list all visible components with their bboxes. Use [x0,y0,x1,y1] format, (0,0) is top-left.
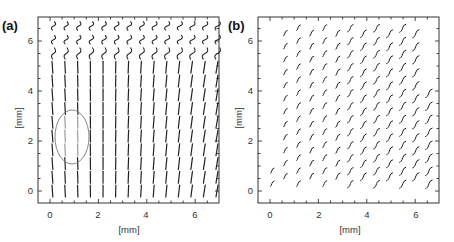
vector-glyph-tail [347,44,348,45]
vector-segment [153,75,154,87]
vector-glyph [336,30,341,36]
panel-b-xtick: 4 [364,209,369,220]
vector-segment [65,171,66,183]
vector-glyph [427,89,433,97]
vector-segment [141,171,142,183]
vector-segment [177,21,182,30]
vector-glyph [401,24,406,31]
vector-glyph [310,69,314,75]
vector-glyph-tail [386,128,388,129]
vector-glyph [323,51,328,57]
vector-glyph-tail [386,63,388,64]
vector-segment [141,89,142,101]
vector-segment [203,130,205,142]
vector-glyph-tail [425,162,427,163]
vector-glyph-tail [412,128,414,129]
vector-segment [178,130,179,142]
vector-segment [114,47,119,59]
panel-b-label: (b) [228,18,245,33]
vector-segment [191,171,193,183]
vector-glyph-tail [373,148,375,149]
vector-segment [190,47,195,59]
vector-glyph [414,69,419,76]
vector-glyph [323,116,328,122]
vector-segment [177,47,182,59]
vector-segment [166,158,167,170]
vector-segment [52,158,53,170]
vector-glyph [427,154,433,162]
vector-glyph-tail [360,154,361,155]
vector-segment [178,185,179,197]
vector-glyph [310,95,314,101]
vector-glyph-tail [360,76,361,77]
vector-glyph-tail [347,174,348,175]
vector-glyph [323,142,328,148]
vector-glyph [296,77,300,83]
vector-segment [216,130,218,142]
vector-glyph [336,160,341,166]
vector-segment [166,103,167,115]
vector-glyph [349,154,354,161]
vector-segment [153,144,154,156]
vector-glyph [296,129,300,135]
vector-segment [202,47,208,59]
vector-glyph [349,102,354,109]
panel-a-ytick: 4 [28,85,33,96]
vector-glyph [283,95,287,101]
vector-glyph [323,168,328,174]
vector-glyph [323,64,328,70]
vector-segment [191,75,193,87]
vector-segment [166,130,167,142]
vector-segment [153,89,154,101]
vector-glyph-tail [412,37,414,38]
vector-glyph [283,82,287,88]
vector-glyph [375,89,380,96]
vector-segment [216,61,218,73]
vector-segment [178,61,179,73]
vector-glyph [388,134,393,141]
vector-glyph-tail [360,180,361,181]
vector-segment [52,61,53,73]
vector-glyph [362,121,367,128]
vector-glyph [414,121,419,128]
vector-glyph-tail [412,154,414,155]
vector-segment [153,158,154,170]
vector-segment [203,75,205,87]
vector-glyph [375,102,380,109]
vector-glyph [349,37,354,44]
vector-segment [216,116,218,128]
vector-segment [152,21,157,30]
vector-glyph [310,147,314,153]
vector-glyph-tail [373,187,375,188]
vector-glyph [310,82,314,88]
vector-glyph-tail [399,57,401,58]
vector-glyph [401,115,406,122]
vector-glyph [414,95,419,102]
vector-glyph [323,103,328,109]
panel-b-xlabel: [mm] [339,224,360,235]
vector-glyph-tail [399,135,401,136]
vector-segment [89,21,94,30]
vector-segment [52,171,53,183]
vector-glyph [362,43,367,50]
vector-glyph-tail [386,167,388,168]
panel-b-xtick: 0 [267,209,272,220]
vector-segment [153,185,154,197]
vector-segment [141,130,142,142]
vector-glyph-tail [399,70,401,71]
vector-glyph-tail [386,102,388,103]
vector-glyph-tail [386,115,388,116]
vector-glyph [323,181,328,187]
vector-glyph [427,180,433,188]
vector-glyph-tail [373,135,375,136]
vector-glyph [336,69,341,75]
vector-glyph [362,82,367,89]
vector-glyph [296,90,300,96]
vector-glyph [414,134,419,141]
vector-glyph-tail [412,167,414,168]
vector-glyph [375,50,380,57]
vector-segment [114,35,119,44]
vector-glyph [414,56,419,63]
vector-glyph-tail [425,175,427,176]
vector-segment [65,116,66,128]
